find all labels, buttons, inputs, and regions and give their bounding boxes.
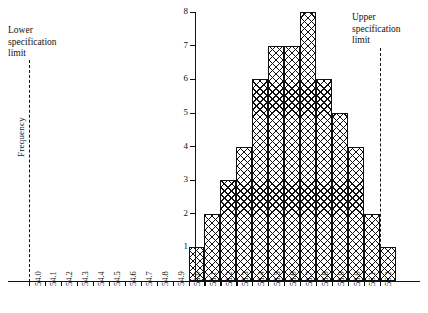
x-axis-tick-label: 54.7 bbox=[144, 271, 154, 286]
x-axis-tick bbox=[268, 281, 269, 286]
x-axis-tick bbox=[332, 281, 333, 286]
y-axis-title: Frequency bbox=[16, 102, 26, 172]
x-axis-tick bbox=[93, 281, 94, 286]
histogram-bar bbox=[236, 147, 252, 281]
x-axis-tick-label: 55.7 bbox=[304, 271, 314, 286]
x-axis-tick bbox=[316, 281, 317, 286]
y-axis-tick bbox=[190, 79, 196, 80]
x-axis-tick bbox=[61, 281, 62, 286]
x-axis-tick bbox=[300, 281, 301, 286]
bar-series bbox=[0, 0, 428, 313]
histogram-bar bbox=[332, 113, 348, 281]
x-axis-tick-label: 55.6 bbox=[288, 271, 298, 286]
histogram-figure: Lower specification limit Upper specific… bbox=[0, 0, 428, 313]
x-axis-tick-label: 54.4 bbox=[96, 271, 106, 286]
x-axis-tick bbox=[141, 281, 142, 286]
x-axis-tick-label: 55.0 bbox=[192, 271, 202, 286]
y-axis-tick-label: 2 bbox=[172, 208, 188, 218]
x-axis-tick bbox=[189, 281, 190, 286]
y-axis-tick bbox=[190, 45, 196, 46]
y-axis-tick-label: 4 bbox=[172, 141, 188, 151]
histogram-bar bbox=[268, 46, 284, 281]
x-axis-tick bbox=[364, 281, 365, 286]
x-axis-tick bbox=[284, 281, 285, 286]
x-axis-tick-label: 55.3 bbox=[240, 271, 250, 286]
x-axis-tick bbox=[380, 281, 381, 286]
y-axis-tick-label: 6 bbox=[172, 73, 188, 83]
histogram-bar bbox=[220, 180, 236, 281]
y-axis-tick bbox=[190, 146, 196, 147]
x-axis-tick bbox=[77, 281, 78, 286]
x-axis-tick-label: 54.9 bbox=[176, 271, 186, 286]
x-axis-tick bbox=[157, 281, 158, 286]
x-axis-tick bbox=[29, 281, 30, 286]
x-axis-tick-label: 54.6 bbox=[128, 271, 138, 286]
x-axis-tick-label: 54.8 bbox=[160, 271, 170, 286]
y-axis-tick bbox=[190, 180, 196, 181]
x-axis-tick-label: 54.3 bbox=[80, 271, 90, 286]
x-axis-tick bbox=[348, 281, 349, 286]
histogram-bar bbox=[284, 46, 300, 281]
x-axis-tick-label: 56.2 bbox=[383, 271, 393, 286]
histogram-bar bbox=[300, 12, 316, 281]
y-axis-tick bbox=[190, 213, 196, 214]
histogram-bar bbox=[316, 79, 332, 281]
y-axis-tick bbox=[190, 247, 196, 248]
x-axis-tick bbox=[45, 281, 46, 286]
x-axis-tick bbox=[220, 281, 221, 286]
x-axis-tick bbox=[125, 281, 126, 286]
x-axis-tick bbox=[109, 281, 110, 286]
y-axis-tick-label: 7 bbox=[172, 40, 188, 50]
y-axis-tick bbox=[190, 113, 196, 114]
y-axis-tick-label: 5 bbox=[172, 107, 188, 117]
x-axis-tick-label: 55.5 bbox=[272, 271, 282, 286]
y-axis-line bbox=[195, 13, 196, 282]
x-axis-tick-label: 55.2 bbox=[224, 271, 234, 286]
histogram-bar bbox=[252, 79, 268, 281]
y-axis-tick-label: 8 bbox=[172, 6, 188, 16]
x-axis-tick-label: 54.5 bbox=[112, 271, 122, 286]
x-axis-tick bbox=[252, 281, 253, 286]
x-axis-tick bbox=[173, 281, 174, 286]
y-axis-tick bbox=[190, 12, 196, 13]
x-axis-tick bbox=[204, 281, 205, 286]
x-axis-tick-label: 55.4 bbox=[256, 271, 266, 286]
x-axis-tick-label: 56.0 bbox=[352, 271, 362, 286]
x-axis-tick-label: 55.1 bbox=[208, 271, 218, 286]
x-axis-tick-label: 54.2 bbox=[64, 271, 74, 286]
y-axis-tick-label: 1 bbox=[172, 241, 188, 251]
x-axis-tick-label: 55.9 bbox=[336, 271, 346, 286]
y-axis-tick-label: 3 bbox=[172, 174, 188, 184]
x-axis-tick-label: 54.1 bbox=[48, 271, 58, 286]
x-axis-tick-label: 54.0 bbox=[33, 271, 43, 286]
x-axis-tick-label: 55.8 bbox=[320, 271, 330, 286]
x-axis-tick bbox=[236, 281, 237, 286]
histogram-bar bbox=[348, 147, 364, 281]
x-axis-tick-label: 56.1 bbox=[367, 271, 377, 286]
